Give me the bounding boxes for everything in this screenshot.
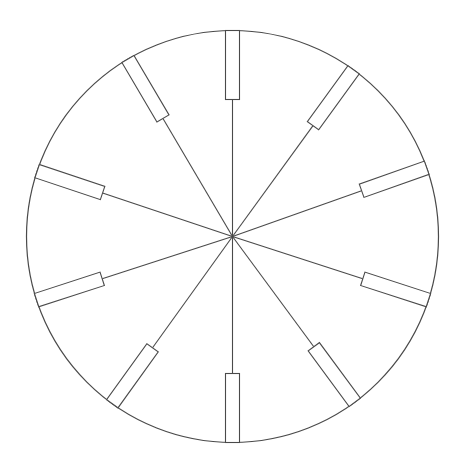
spokes-group bbox=[34, 31, 430, 443]
spoke-rectangle bbox=[122, 55, 169, 122]
spoke-rectangle bbox=[34, 272, 104, 307]
spoke-rectangle bbox=[107, 344, 159, 408]
spoke-rectangle bbox=[226, 374, 240, 443]
spoke-rectangle bbox=[361, 272, 431, 307]
spoke-line bbox=[103, 193, 233, 236]
spoke-line bbox=[153, 237, 233, 348]
spoke-rectangle bbox=[359, 161, 429, 197]
spoke-rectangle bbox=[35, 164, 105, 199]
spoke-line bbox=[233, 237, 363, 279]
spoke-rectangle bbox=[308, 343, 360, 407]
spoked-circle-diagram bbox=[0, 0, 461, 471]
spoke-line bbox=[233, 191, 362, 237]
spoke-rectangle bbox=[226, 31, 240, 100]
spoke-line bbox=[163, 118, 233, 236]
spoke-line bbox=[102, 237, 232, 279]
spoke-line bbox=[233, 126, 314, 237]
spoke-rectangle bbox=[307, 66, 359, 130]
diagram-canvas bbox=[0, 0, 461, 471]
spoke-line bbox=[233, 237, 314, 347]
